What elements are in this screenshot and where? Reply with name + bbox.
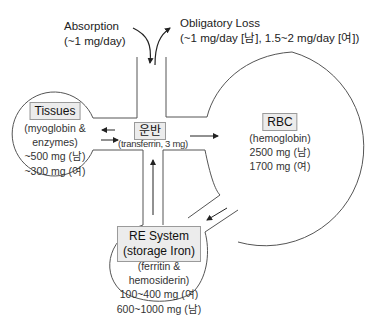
obligatory-loss-arrow <box>155 28 170 65</box>
re-system-details: (ferritin & hemosiderin) 100~400 mg (여) … <box>117 259 201 316</box>
rbc-line: (hemoglobin) <box>249 131 310 145</box>
rbc-line: 1700 mg (여) <box>250 159 311 173</box>
obligatory-loss-title: Obligatory Loss <box>180 18 260 30</box>
re-system-line: 600~1000 mg (남) <box>117 302 201 316</box>
absorption-title: Absorption <box>64 21 119 33</box>
tissues-line: ~500 mg (남) <box>24 149 85 163</box>
tissues-line: (myoglobin & <box>24 121 85 135</box>
rbc-line: 2500 mg (남) <box>250 145 311 159</box>
re-system-title-box: RE System (storage Iron) <box>117 226 201 262</box>
top-stem-right <box>166 57 207 117</box>
re-neck-right <box>205 210 238 232</box>
tissues-title-box: Tissues <box>30 102 81 120</box>
rbc-to-re-arrow <box>207 208 227 220</box>
tissues-line: ~300 mg (여) <box>24 164 85 178</box>
tissues-line: enzymes) <box>32 135 78 149</box>
transport-subtitle: (transferrin, 3 mg) <box>118 139 188 149</box>
bottom-stem-left <box>93 150 143 225</box>
rbc-details: (hemoglobin) 2500 mg (남) 1700 mg (여) <box>249 131 310 174</box>
absorption-value: (~1 mg/day) <box>64 36 126 48</box>
re-system-line: 100~400 mg (여) <box>120 287 199 301</box>
tissues-details: (myoglobin & enzymes) ~500 mg (남) ~300 m… <box>24 121 85 178</box>
re-system-title-line1: RE System <box>123 229 195 244</box>
re-system-line: hemosiderin) <box>129 273 190 287</box>
obligatory-loss-value: (~1 mg/day [남], 1.5~2 mg/day [여]) <box>180 33 359 45</box>
rbc-neck-lower <box>163 150 220 218</box>
top-stem-left <box>93 57 137 118</box>
absorption-arrow <box>133 28 150 63</box>
rbc-title-box: RBC <box>262 113 297 131</box>
re-system-line: (ferritin & <box>138 259 181 273</box>
re-system-title-line2: (storage Iron) <box>123 244 195 259</box>
